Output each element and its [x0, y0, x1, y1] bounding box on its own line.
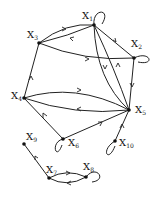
loop-x6	[55, 139, 63, 152]
label-x10: X10	[119, 137, 134, 149]
edge-x6-x5	[63, 110, 129, 139]
loop-x2	[134, 56, 149, 63]
loop-x8	[86, 172, 100, 182]
node-x10	[113, 139, 117, 143]
arrow-icon	[85, 57, 89, 61]
edge-x1-x5-b	[94, 25, 129, 110]
edge-x4-x3	[24, 43, 39, 98]
nodes	[22, 23, 136, 180]
label-x9: X9	[26, 131, 37, 143]
directed-graph: X1 X2 X3 X4 X5 X6 X7 X8 X9 X10	[0, 0, 159, 198]
label-x6: X6	[68, 137, 79, 149]
label-x4: X4	[11, 90, 22, 102]
edge-x3-x2	[39, 43, 134, 59]
arrow-icon	[103, 65, 107, 69]
node-x2	[132, 56, 136, 60]
arrow-icon	[77, 88, 81, 92]
label-x7: X7	[46, 164, 57, 176]
label-x8: X8	[83, 161, 94, 173]
loop-x10	[106, 141, 115, 155]
node-x9	[22, 142, 26, 146]
label-x3: X3	[27, 29, 38, 41]
loop-x1	[94, 12, 105, 25]
node-x4	[22, 96, 26, 100]
node-x7	[47, 176, 51, 180]
node-x6	[61, 137, 65, 141]
arrow-icon	[116, 63, 120, 67]
edge-x8-x7	[49, 177, 86, 183]
node-x5	[127, 108, 131, 112]
edge-x3-x1	[39, 25, 94, 43]
label-x5: X5	[135, 104, 146, 116]
edge-x1-x5-a	[94, 25, 129, 110]
arrowheads	[29, 27, 134, 185]
edge-x4-x5	[24, 92, 129, 110]
node-x3	[37, 41, 41, 45]
label-x2: X2	[131, 38, 142, 50]
edge-x1-x2	[94, 25, 134, 58]
arrow-icon	[70, 37, 74, 41]
node-x8	[84, 175, 88, 179]
label-x1: X1	[82, 10, 93, 22]
arrow-icon	[43, 113, 47, 118]
edge-x5-x4	[24, 98, 129, 112]
arrow-icon	[35, 156, 38, 160]
node-x1	[92, 23, 96, 27]
